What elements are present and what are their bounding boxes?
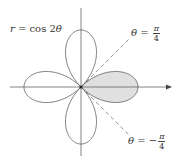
lower-line-eq: = <box>134 135 149 146</box>
lower-line-sign: − <box>149 135 157 146</box>
equation-rhs: = cos 2 <box>15 23 56 34</box>
lower-line-den: 4 <box>159 142 164 151</box>
upper-line-label: θ = π4 <box>131 24 160 43</box>
x-axis-arrow-icon <box>166 85 172 90</box>
lower-line-num: π <box>158 132 165 142</box>
origin-dot <box>79 85 82 88</box>
lower-line-fraction: π4 <box>158 132 165 151</box>
upper-line-eq: = <box>137 27 152 38</box>
upper-line-den: 4 <box>154 34 159 43</box>
equation-var: θ <box>56 23 62 34</box>
equation-label: r = cos 2θ <box>10 24 62 34</box>
upper-line-fraction: π4 <box>153 24 160 43</box>
lower-line-label: θ = −π4 <box>128 132 165 151</box>
upper-line-num: π <box>153 24 160 34</box>
